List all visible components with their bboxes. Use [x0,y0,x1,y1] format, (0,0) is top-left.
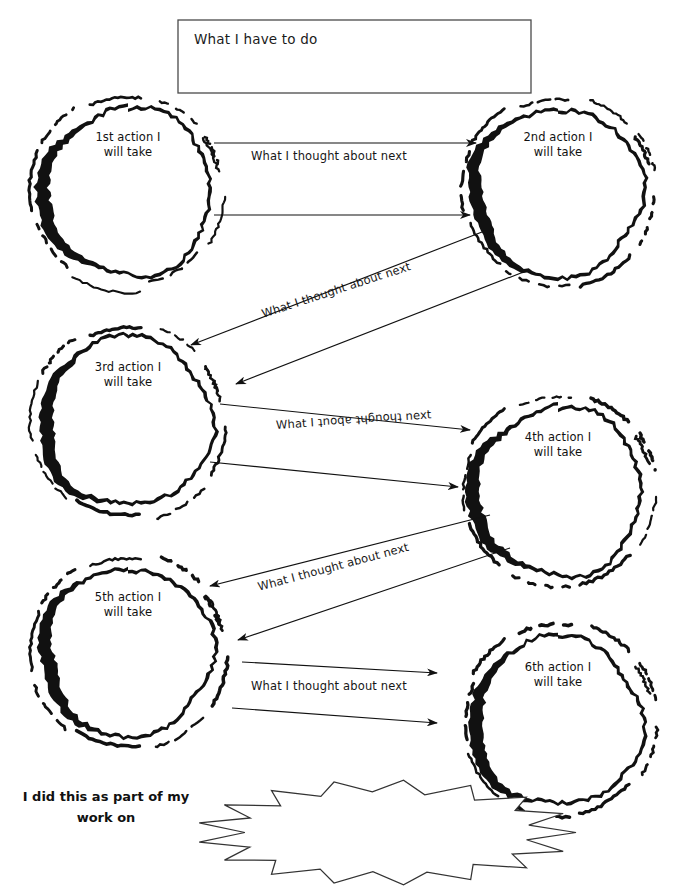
connector-5-arrow-1 [242,662,437,673]
bubble-1[interactable] [29,97,225,294]
title-box-label: What I have to do [194,31,318,47]
worksheet-page: What I have to do 1st action I will take… [0,0,675,892]
connector-5-label: What I thought about next [251,679,407,693]
bubble-4[interactable] [463,396,657,588]
bubble-3[interactable] [29,327,226,521]
connector-1-label: What I thought about next [251,149,407,163]
connector-2-arrow-2 [236,271,526,384]
bubble-2[interactable] [460,99,655,287]
connector-3-arrow-2 [210,462,458,487]
footer-label: I did this as part of my work on [12,786,200,828]
connectors-layer [191,143,526,723]
connector-5-arrow-2 [232,708,437,723]
connector-2 [191,232,526,384]
bubble-5[interactable] [30,557,228,748]
connector-4 [210,515,510,640]
bubble-6[interactable] [465,623,658,818]
worksheet-canvas [0,0,675,892]
connector-4-arrow-1 [210,515,490,586]
bubbles-layer [29,97,658,818]
